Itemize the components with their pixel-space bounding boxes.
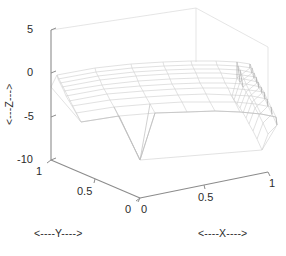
mesh-surface (51, 61, 277, 160)
axes-lines (51, 30, 268, 198)
z-tick-label-neg5: -5 (24, 111, 34, 122)
y-axis-label: <----Y----> (34, 228, 82, 239)
axes-box-back (51, 8, 268, 100)
x-tick-label-0: 0 (141, 204, 147, 215)
plot-canvas (0, 0, 286, 256)
x-tick-label-0-5: 0.5 (198, 192, 213, 203)
y-tick-label-0-5: 0.5 (77, 186, 92, 197)
tick-marks (47, 28, 270, 202)
z-tick-label-5: 5 (27, 24, 33, 35)
y-axis-line (51, 160, 140, 198)
x-axis-label: <----X----> (198, 228, 247, 239)
z-axis-label: <---Z---> (4, 84, 15, 125)
z-tick-label-0: 0 (27, 67, 33, 78)
x-tick-label-1: 1 (269, 178, 275, 189)
z-tick-label-neg10: -10 (17, 154, 33, 165)
y-tick-label-1: 1 (36, 166, 42, 177)
surface-plot-figure: 5 0 -5 -10 1 0.5 0 0 0.5 1 <---Z---> <--… (0, 0, 286, 256)
y-tick-label-0: 0 (125, 204, 131, 215)
